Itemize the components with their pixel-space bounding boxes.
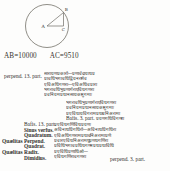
- term-dimidius: Dimidius.: [24, 156, 54, 162]
- label-b: B: [65, 7, 68, 12]
- caption-ac-value: AC=9510: [50, 52, 79, 60]
- script-line: प्रवनियमप्रधानसायकानुगमाः: [44, 92, 166, 97]
- text-block-perpend: perpend. 13. part. सारायणप्रकारो—प्रणावे…: [4, 71, 166, 98]
- script-column-continuation: भगरावधिभुप्रणागेराएविधगणरा प्रवनियमप्रधा…: [66, 100, 170, 121]
- marginal-label-column: perpend. 13. part.: [4, 71, 44, 80]
- geometry-diagram: A B C: [0, 0, 170, 52]
- label-quaelitas-2: Quælitas: [2, 150, 24, 156]
- diagram-caption: AB=10000 AC=9510: [4, 52, 124, 63]
- script-line: एविधगणिरावगणरा: [54, 154, 164, 159]
- caption-ab-value: AB=10000: [4, 52, 37, 60]
- manuscript-text-body: perpend. 13. part. सारायणप्रकारो—प्रणावे…: [0, 68, 170, 171]
- radius-line-ab: [47, 13, 64, 27]
- script-line-with-latin: Bafis. 3. part. प्रयणगधिविगणरा: [66, 116, 170, 121]
- circle-diagram-svg: A B C: [0, 0, 170, 52]
- tail-latin-perpend: perpend. 3. part.: [110, 156, 145, 162]
- marginal-label-perpend: perpend. 13. part.: [4, 74, 44, 80]
- scanned-manuscript-page: A B C AB=10000 AC=9510 perpend. 13. part…: [0, 0, 170, 171]
- script-line-tail: प्रयणगधिविगणरा: [96, 116, 125, 121]
- latin-terms-column: Bafis. 13. part. Sinus verfus. Quadratum…: [24, 122, 54, 161]
- label-quaelitas-1: Quælitas: [2, 139, 24, 145]
- script-column-primary: सारायणप्रकारो—प्रणावेदायाधप्र प्रावधिभगा…: [44, 71, 166, 98]
- text-block-continuation: भगरावधिभुप्रणागेराएविधगणरा प्रवनियमप्रधा…: [66, 100, 170, 121]
- label-c: C: [62, 27, 65, 32]
- quaelitas-column: Quælitas Quælitas: [2, 122, 24, 156]
- script-column-table: प्रएविधगणिविधप्रयणः अविनाधप्रिगधिरो—अविन…: [54, 122, 164, 159]
- label-a: A: [41, 24, 46, 29]
- inline-latin-bafis: Bafis. 3. part.: [66, 116, 94, 121]
